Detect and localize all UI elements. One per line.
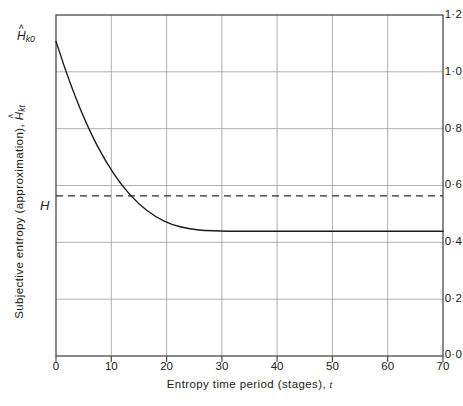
x-axis-title: Entropy time period (stages), t bbox=[56, 378, 443, 390]
x-tick-60: 60 bbox=[368, 360, 408, 372]
x-axis-title-text: Entropy time period (stages), bbox=[167, 378, 330, 390]
hat-mark-hk0: ˄ bbox=[19, 23, 24, 32]
y-tick-1.0: 1·0 bbox=[420, 65, 462, 77]
y-axis-title: Subjective entropy (approximation), ˄Hkt bbox=[13, 62, 27, 362]
y-tick-0.0: 0·0 bbox=[420, 348, 462, 360]
x-tick-20: 20 bbox=[147, 360, 187, 372]
y-tick-1.2: 1·2 bbox=[420, 8, 462, 20]
hat-mark-ykt: ˄ bbox=[7, 113, 16, 119]
x-tick-70: 70 bbox=[423, 360, 463, 372]
y-axis-title-text: Subjective entropy (approximation), bbox=[13, 120, 25, 319]
y-tick-0.8: 0·8 bbox=[420, 122, 462, 134]
h-symbol: H bbox=[40, 198, 49, 213]
x-tick-30: 30 bbox=[202, 360, 242, 372]
x-tick-0: 0 bbox=[36, 360, 76, 372]
y-tick-0.4: 0·4 bbox=[420, 235, 462, 247]
hk0-subscript: k0 bbox=[26, 34, 35, 44]
y-tick-0.6: 0·6 bbox=[420, 178, 462, 190]
x-tick-50: 50 bbox=[312, 360, 352, 372]
annotation-hk0: ˄Hk0 bbox=[17, 29, 35, 44]
x-tick-10: 10 bbox=[91, 360, 131, 372]
y-tick-0.2: 0·2 bbox=[420, 292, 462, 304]
annotation-h-asymptote: H bbox=[40, 198, 49, 213]
x-axis-symbol: t bbox=[330, 379, 333, 390]
x-tick-40: 40 bbox=[257, 360, 297, 372]
